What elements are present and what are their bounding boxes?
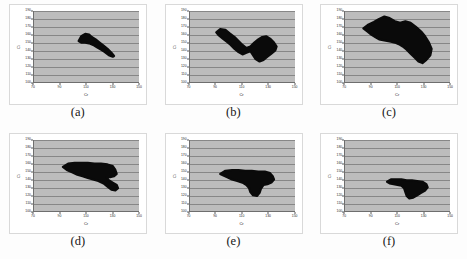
data-cluster-e xyxy=(190,140,295,211)
panel-caption-f: (f) xyxy=(311,234,467,249)
plot-area-a xyxy=(33,11,139,83)
x-tick-label-d-110: 110 xyxy=(83,215,88,218)
y-tick-mark-a-170 xyxy=(31,27,33,28)
plot-area-e xyxy=(189,140,295,212)
x-tick-label-d-150: 150 xyxy=(136,215,142,218)
plot-wrap-a: 100110120130140150160170180190 709011013… xyxy=(33,11,139,83)
y-tick-mark-f-140 xyxy=(342,180,344,181)
panel-d: 100110120130140150160170180190 709011013… xyxy=(0,129,156,258)
panel-caption-e: (e) xyxy=(156,234,312,249)
y-tick-mark-c-170 xyxy=(342,27,344,28)
plot-area-d xyxy=(33,140,139,212)
y-axis-label-b: Ci xyxy=(172,45,177,49)
y-tick-mark-d-120 xyxy=(31,196,33,197)
x-tick-mark-b-90 xyxy=(215,83,216,85)
x-tick-mark-d-70 xyxy=(33,212,34,214)
y-tick-mark-f-130 xyxy=(342,188,344,189)
x-tick-label-f-90: 90 xyxy=(369,215,373,218)
y-tick-mark-c-160 xyxy=(342,35,344,36)
x-tick-mark-d-150 xyxy=(139,212,140,214)
x-tick-label-f-110: 110 xyxy=(394,215,399,218)
x-tick-mark-e-130 xyxy=(268,212,269,214)
y-tick-mark-f-180 xyxy=(342,148,344,149)
y-tick-mark-c-140 xyxy=(342,51,344,52)
y-tick-mark-d-180 xyxy=(31,148,33,149)
y-axis-label-a: Ci xyxy=(16,45,21,49)
chart-frame-d: 100110120130140150160170180190 709011013… xyxy=(9,133,147,234)
x-tick-mark-e-90 xyxy=(215,212,216,214)
y-tick-mark-b-180 xyxy=(187,19,189,20)
x-tick-mark-d-130 xyxy=(112,212,113,214)
panel-caption-c: (c) xyxy=(311,105,467,120)
y-tick-mark-e-140 xyxy=(187,180,189,181)
y-tick-mark-a-180 xyxy=(31,19,33,20)
y-axis-label-d: Ci xyxy=(16,174,21,178)
x-tick-label-a-70: 70 xyxy=(31,86,35,89)
x-tick-label-a-110: 110 xyxy=(83,86,88,89)
x-tick-mark-f-110 xyxy=(397,212,398,214)
x-axis-label-d: Cr xyxy=(84,221,88,226)
chart-frame-f: 100110120130140150160170180190 709011013… xyxy=(320,133,458,234)
x-tick-mark-a-110 xyxy=(86,83,87,85)
y-tick-mark-e-110 xyxy=(187,204,189,205)
y-tick-mark-c-130 xyxy=(342,59,344,60)
y-tick-mark-b-190 xyxy=(187,11,189,12)
y-tick-mark-b-110 xyxy=(187,75,189,76)
y-tick-mark-a-110 xyxy=(31,75,33,76)
x-tick-mark-f-90 xyxy=(370,212,371,214)
chart-frame-e: 100110120130140150160170180190 709011013… xyxy=(165,133,303,234)
y-tick-mark-c-190 xyxy=(342,11,344,12)
y-tick-mark-f-170 xyxy=(342,156,344,157)
x-axis-label-b: Cr xyxy=(239,92,243,97)
y-tick-mark-f-120 xyxy=(342,196,344,197)
figure-row-top: 100110120130140150160170180190 709011013… xyxy=(0,0,467,129)
x-axis-label-a: Cr xyxy=(84,92,88,97)
x-tick-mark-f-130 xyxy=(423,212,424,214)
x-axis-label-e: Cr xyxy=(239,221,243,226)
x-tick-mark-c-70 xyxy=(344,83,345,85)
data-cluster-a xyxy=(34,11,139,82)
y-tick-mark-b-150 xyxy=(187,43,189,44)
y-tick-mark-f-190 xyxy=(342,140,344,141)
x-axis-label-f: Cr xyxy=(395,221,399,226)
y-axis-label-c: Ci xyxy=(328,45,333,49)
x-tick-label-b-70: 70 xyxy=(187,86,191,89)
panel-a: 100110120130140150160170180190 709011013… xyxy=(0,0,156,129)
x-tick-label-f-70: 70 xyxy=(342,215,346,218)
plot-area-c xyxy=(344,11,450,83)
y-tick-mark-d-140 xyxy=(31,180,33,181)
y-tick-mark-a-160 xyxy=(31,35,33,36)
y-tick-mark-d-150 xyxy=(31,172,33,173)
data-cluster-b xyxy=(190,11,295,82)
y-tick-mark-e-130 xyxy=(187,188,189,189)
y-tick-mark-b-160 xyxy=(187,35,189,36)
plot-wrap-c: 100110120130140150160170180190 709011013… xyxy=(344,11,450,83)
plot-wrap-b: 100110120130140150160170180190 709011013… xyxy=(189,11,295,83)
panel-caption-b: (b) xyxy=(156,105,312,120)
x-tick-mark-c-150 xyxy=(450,83,451,85)
x-tick-label-d-90: 90 xyxy=(58,215,62,218)
x-tick-mark-c-90 xyxy=(370,83,371,85)
y-tick-mark-e-190 xyxy=(187,140,189,141)
x-tick-label-e-130: 130 xyxy=(265,215,271,218)
y-tick-mark-c-180 xyxy=(342,19,344,20)
data-cluster-d xyxy=(34,140,139,211)
figure-row-bottom: 100110120130140150160170180190 709011013… xyxy=(0,129,467,258)
chart-frame-c: 100110120130140150160170180190 709011013… xyxy=(320,4,458,105)
y-tick-mark-c-110 xyxy=(342,75,344,76)
y-tick-mark-d-190 xyxy=(31,140,33,141)
x-tick-mark-f-150 xyxy=(450,212,451,214)
x-tick-mark-f-70 xyxy=(344,212,345,214)
chart-frame-b: 100110120130140150160170180190 709011013… xyxy=(165,4,303,105)
plot-area-b xyxy=(189,11,295,83)
x-axis-label-c: Cr xyxy=(395,92,399,97)
y-tick-mark-b-130 xyxy=(187,59,189,60)
y-axis-label-e: Ci xyxy=(172,174,177,178)
data-cluster-c xyxy=(345,11,450,82)
x-tick-mark-a-130 xyxy=(112,83,113,85)
y-tick-mark-d-160 xyxy=(31,164,33,165)
x-tick-mark-d-90 xyxy=(59,212,60,214)
y-axis-label-f: Ci xyxy=(328,174,333,178)
panel-f: 100110120130140150160170180190 709011013… xyxy=(311,129,467,258)
x-tick-mark-a-70 xyxy=(33,83,34,85)
